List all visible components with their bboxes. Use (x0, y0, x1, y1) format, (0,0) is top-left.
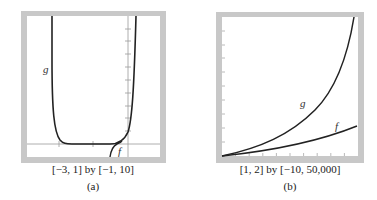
chart-b-plot-area (222, 17, 358, 156)
chart-panel-a: g f [−3, 1] by [−1, 10] (a) (0, 0, 190, 200)
chart-a-label-g: g (43, 63, 49, 75)
chart-b-label-g: g (300, 97, 306, 109)
chart-b-window-caption: [1, 2] by [−10, 50,000] (220, 163, 360, 175)
chart-b-panel-label: (b) (270, 180, 310, 192)
chart-a-panel-label: (a) (73, 180, 113, 192)
chart-a-plot-area (27, 16, 160, 157)
chart-a-window-caption: [−3, 1] by [−1, 10] (33, 163, 153, 175)
chart-a-canvas: g f (0, 0, 190, 165)
chart-panel-b: g f [1, 2] by [−10, 50,000] (b) (190, 0, 377, 200)
chart-b-canvas: g f (190, 0, 377, 165)
